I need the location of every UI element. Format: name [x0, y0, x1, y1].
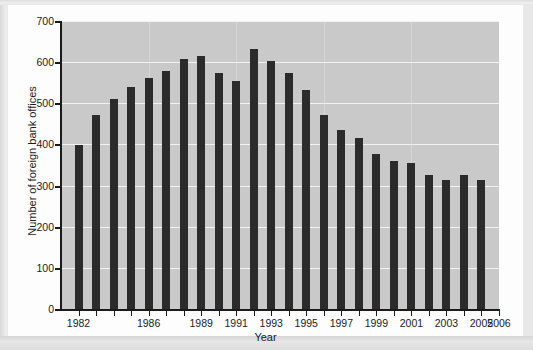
bar — [407, 163, 415, 310]
x-axis-tick-label: 1991 — [216, 317, 256, 329]
bar — [232, 81, 240, 310]
x-axis-tick — [394, 310, 395, 316]
x-axis-tick — [79, 310, 80, 316]
bar — [127, 87, 135, 310]
y-axis-tick — [55, 62, 62, 64]
x-axis-tick-label: 1989 — [181, 317, 221, 329]
bar — [110, 99, 118, 310]
bar — [390, 161, 398, 310]
x-axis-tick-label: 1995 — [286, 317, 326, 329]
bar — [337, 130, 345, 310]
y-axis-tick — [55, 309, 62, 311]
plot-area — [61, 22, 499, 310]
bar — [267, 61, 275, 310]
bar — [75, 145, 83, 310]
x-axis-tick — [411, 310, 412, 316]
bar — [250, 49, 258, 310]
x-axis-tick — [271, 310, 272, 316]
bar — [477, 180, 485, 310]
x-axis-tick — [359, 310, 360, 316]
x-axis-tick — [481, 310, 482, 316]
bar — [302, 90, 310, 310]
y-axis-tick-label: 0 — [20, 304, 54, 314]
gridline-horizontal — [61, 21, 499, 22]
bar — [460, 175, 468, 310]
bar — [197, 56, 205, 310]
x-axis-tick — [96, 310, 97, 316]
page-edge-left — [0, 0, 8, 350]
y-axis-tick-label: 700 — [20, 16, 54, 26]
x-axis-line — [60, 309, 500, 311]
bar — [425, 175, 433, 310]
y-axis-tick — [55, 227, 62, 229]
x-axis-tick-label: 2003 — [426, 317, 466, 329]
x-axis-tick-label: 1982 — [59, 317, 99, 329]
gridline-horizontal — [61, 62, 499, 63]
x-axis-tick — [429, 310, 430, 316]
bar — [355, 138, 363, 310]
x-axis-title: Year — [8, 331, 523, 343]
x-axis-tick-label: 2006 — [479, 317, 519, 329]
x-axis-tick — [499, 310, 500, 316]
bar — [92, 115, 100, 310]
x-axis-tick — [376, 310, 377, 316]
x-axis-tick-label: 1986 — [129, 317, 169, 329]
x-axis-tick — [149, 310, 150, 316]
x-axis-tick — [219, 310, 220, 316]
x-axis-tick-label: 1999 — [356, 317, 396, 329]
x-axis-tick — [464, 310, 465, 316]
figure-card: 0100200300400500600700 19821986198919911… — [8, 5, 523, 336]
x-axis-tick — [306, 310, 307, 316]
x-axis-tick — [131, 310, 132, 316]
x-axis-tick-label: 1997 — [321, 317, 361, 329]
bar — [442, 180, 450, 310]
bar — [285, 73, 293, 310]
x-axis-tick — [324, 310, 325, 316]
x-axis-tick — [184, 310, 185, 316]
x-axis-tick — [341, 310, 342, 316]
y-axis-tick — [55, 103, 62, 105]
bar — [372, 154, 380, 310]
y-axis-tick — [55, 144, 62, 146]
chart-screenshot: 0100200300400500600700 19821986198919911… — [0, 0, 533, 350]
bar — [320, 115, 328, 310]
bar — [180, 59, 188, 310]
bar — [162, 71, 170, 310]
bar — [145, 78, 153, 310]
y-axis-tick — [55, 268, 62, 270]
x-axis-tick — [289, 310, 290, 316]
x-axis-tick — [236, 310, 237, 316]
y-axis-tick — [55, 21, 62, 23]
y-axis-title: Number of foreign bank offices — [26, 51, 38, 271]
y-axis-tick — [55, 186, 62, 188]
x-axis-tick — [201, 310, 202, 316]
x-axis-tick-label: 1993 — [251, 317, 291, 329]
x-axis-tick — [114, 310, 115, 316]
x-axis-tick — [166, 310, 167, 316]
x-axis-tick — [446, 310, 447, 316]
x-axis-tick-label: 2001 — [391, 317, 431, 329]
bar — [215, 73, 223, 310]
x-axis-tick — [254, 310, 255, 316]
